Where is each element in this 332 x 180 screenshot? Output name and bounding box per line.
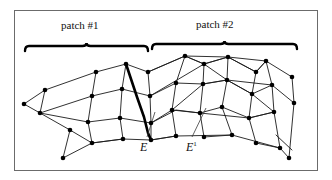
- mesh-vertex: [86, 120, 91, 125]
- mesh-vertex: [90, 141, 95, 146]
- mesh-vertex: [287, 156, 292, 161]
- mesh-vertex: [124, 62, 129, 67]
- mesh-vertex: [220, 105, 225, 110]
- mesh-vertex: [170, 108, 175, 113]
- mesh-vertex: [146, 70, 151, 75]
- mesh-vertex: [43, 88, 48, 93]
- mesh-vertex: [149, 138, 154, 143]
- mesh-vertex: [292, 101, 297, 106]
- mesh-vertex: [38, 111, 43, 116]
- mesh-vertex: [225, 78, 230, 83]
- mesh-vertex: [174, 81, 179, 86]
- mesh-vertex: [230, 133, 235, 138]
- edge-label-E-prime-superscript: 1: [193, 140, 197, 148]
- mesh-vertex: [226, 55, 231, 60]
- mesh-vertex: [264, 59, 269, 64]
- edge-label-E-text: E: [140, 140, 147, 154]
- edge-label-E-prime: E1: [186, 140, 197, 155]
- mesh-vertex: [247, 116, 252, 121]
- edge-label-E: E: [140, 140, 147, 155]
- mesh-vertex: [94, 70, 99, 75]
- mesh-vertex: [198, 111, 203, 116]
- mesh-diagram-canvas: [0, 0, 332, 180]
- patch-2-label: patch #2: [196, 18, 234, 30]
- mesh-vertex: [270, 83, 275, 88]
- mesh-vertex: [250, 92, 255, 97]
- mesh-vertex: [254, 70, 259, 75]
- mesh-vertex: [121, 137, 126, 142]
- mesh-vertex: [68, 128, 73, 133]
- mesh-vertex: [22, 102, 27, 107]
- mesh-vertex: [290, 75, 295, 80]
- mesh-vertex: [90, 94, 95, 99]
- mesh-vertex: [148, 94, 153, 99]
- mesh-vertex: [201, 82, 206, 87]
- mesh-vertex: [120, 87, 125, 92]
- mesh-vertex: [272, 110, 277, 115]
- mesh-vertex: [174, 134, 179, 139]
- mesh-vertex: [254, 141, 259, 146]
- figure-container: patch #1 patch #2 E E1: [0, 0, 332, 180]
- mesh-vertex: [118, 116, 123, 121]
- mesh-vertex: [202, 135, 207, 140]
- mesh-vertex: [149, 121, 154, 126]
- patch-1-label: patch #1: [61, 19, 99, 31]
- mesh-vertex: [183, 54, 188, 59]
- mesh-vertex: [278, 146, 283, 151]
- mesh-vertex: [202, 62, 207, 67]
- mesh-vertex: [61, 156, 66, 161]
